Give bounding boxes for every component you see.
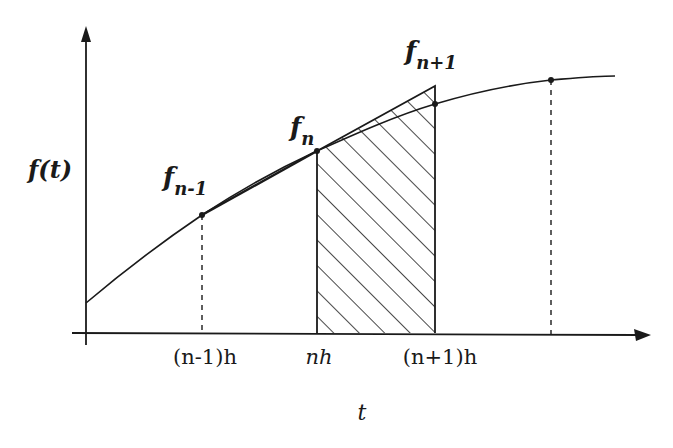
hatched-region: [317, 80, 435, 333]
y-axis-label: f(t): [26, 155, 72, 184]
extrapolation-line: [202, 151, 317, 215]
integration-diagram: f(t) fn-1 fn fn+1 (n-1)h nh (n+1)h t: [0, 0, 673, 448]
x-axis-arrow-icon: [634, 329, 651, 341]
label-f-n: fn: [288, 112, 314, 149]
point-f-n-plus-2: [548, 77, 554, 83]
y-axis-arrow-icon: [81, 26, 91, 42]
tick-label-n-minus-1-h: (n-1)h: [173, 345, 237, 369]
y-axis: [81, 26, 91, 345]
tick-label-n-plus-1-h: (n+1)h: [403, 345, 477, 369]
point-f-n: [314, 148, 320, 154]
label-f-n-minus-1: fn-1: [161, 162, 207, 199]
point-f-n-plus-1: [432, 101, 438, 107]
point-f-n-minus-1: [199, 212, 205, 218]
tick-label-nh: nh: [305, 345, 332, 369]
x-axis-label: t: [358, 400, 367, 425]
label-f-n-plus-1: fn+1: [403, 36, 457, 73]
